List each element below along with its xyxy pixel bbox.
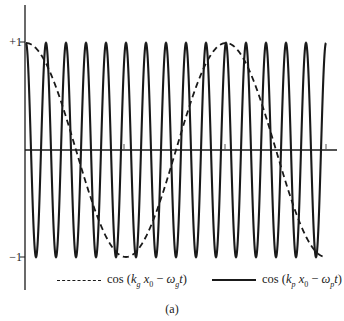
legend-solid: cos (kp x0 − ωpt) xyxy=(212,272,342,289)
legend-dashed-label: cos (kg x0 − ωgt) xyxy=(107,272,187,289)
x-ticks xyxy=(124,144,326,150)
y-label-plus1: +1 xyxy=(0,35,22,50)
solid-line-swatch xyxy=(212,279,256,281)
legend-dashed: cos (kg x0 − ωgt) xyxy=(57,272,187,289)
figure-caption: (a) xyxy=(0,302,344,317)
y-label-minus1: −1 xyxy=(0,250,22,265)
dashed-line-swatch xyxy=(57,280,101,281)
legend-solid-label: cos (kp x0 − ωpt) xyxy=(262,272,342,289)
